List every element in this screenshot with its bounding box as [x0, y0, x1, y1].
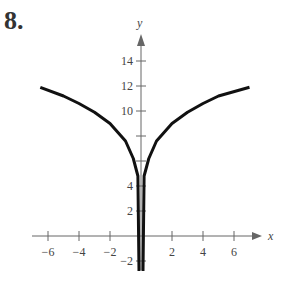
svg-text:−4: −4	[73, 245, 86, 259]
svg-text:14: 14	[121, 54, 133, 68]
y-axis-label: y	[136, 16, 143, 30]
svg-text:4: 4	[200, 245, 206, 259]
curve	[40, 87, 249, 271]
svg-text:−2: −2	[120, 254, 133, 268]
svg-text:−6: −6	[42, 245, 55, 259]
axes	[32, 34, 262, 270]
svg-text:12: 12	[121, 79, 133, 93]
svg-text:10: 10	[121, 104, 133, 118]
svg-text:2: 2	[127, 204, 133, 218]
x-axis-label: x	[267, 229, 274, 243]
svg-text:6: 6	[231, 245, 237, 259]
svg-text:−2: −2	[104, 245, 117, 259]
svg-text:4: 4	[127, 179, 133, 193]
right-branch	[143, 87, 250, 271]
chart: −6−4−224624101214−2 x y	[0, 0, 287, 302]
svg-text:2: 2	[169, 245, 175, 259]
